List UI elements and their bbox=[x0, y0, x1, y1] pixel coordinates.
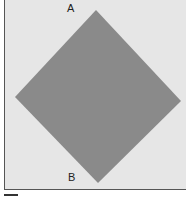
footer-mark bbox=[4, 194, 18, 196]
vertex-label-a: A bbox=[67, 3, 74, 14]
diamond-shape bbox=[5, 0, 186, 190]
vertex-label-b: B bbox=[68, 172, 75, 183]
diagram-frame bbox=[4, 0, 186, 190]
